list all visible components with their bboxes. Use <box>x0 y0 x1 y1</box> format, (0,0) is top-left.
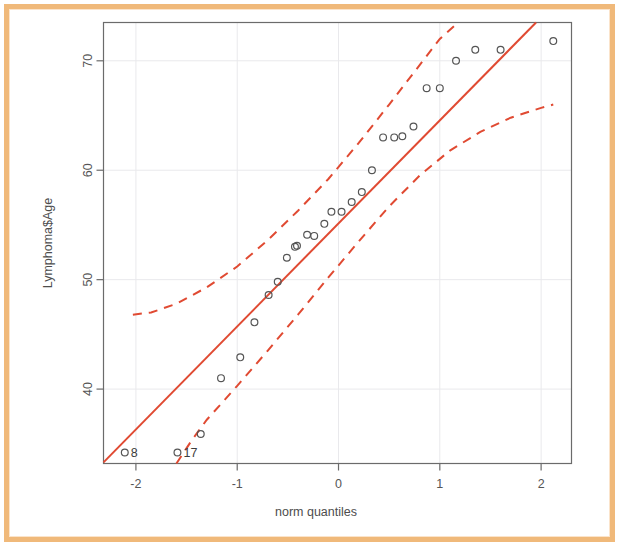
qq-reference-line <box>104 23 537 463</box>
data-point <box>358 189 365 196</box>
gridlines <box>104 23 572 464</box>
y-tick-label: 40 <box>81 382 95 396</box>
outlier-label-group: 817 <box>131 446 198 460</box>
x-tick-label: -1 <box>232 477 243 491</box>
outlier-label: 17 <box>183 446 197 460</box>
upper-confidence-band <box>133 23 458 315</box>
x-axis-tick-labels: -2-1012 <box>130 477 544 491</box>
y-tick-label: 60 <box>81 163 95 177</box>
x-axis-title: norm quantiles <box>275 505 357 519</box>
data-point <box>218 375 225 382</box>
data-point <box>497 46 504 53</box>
x-tick-label: 0 <box>335 477 342 491</box>
lower-confidence-band <box>176 105 553 464</box>
y-tick-label: 50 <box>81 273 95 287</box>
y-axis-title: Lymphoma$Age <box>41 198 55 289</box>
data-point <box>472 46 479 53</box>
x-tick-label: 2 <box>538 477 545 491</box>
data-point <box>399 133 406 140</box>
data-point <box>311 232 318 239</box>
data-point <box>197 431 204 438</box>
x-tick-label: -2 <box>130 477 141 491</box>
data-point <box>294 242 301 249</box>
data-point <box>348 199 355 206</box>
data-point <box>338 208 345 215</box>
data-point <box>321 220 328 227</box>
data-point <box>550 38 557 45</box>
plot-frame-box <box>104 23 572 464</box>
data-point <box>283 254 290 261</box>
qq-plot: 817 -2-1012 40506070 norm quantiles Lymp… <box>0 0 619 546</box>
y-tick-label: 70 <box>81 54 95 68</box>
data-point <box>328 208 335 215</box>
data-point <box>237 354 244 361</box>
data-point <box>304 231 311 238</box>
data-point <box>391 134 398 141</box>
data-point <box>251 319 258 326</box>
y-axis-ticks <box>97 61 104 389</box>
data-point <box>174 449 181 456</box>
data-point-group <box>121 38 556 456</box>
x-tick-label: 1 <box>436 477 443 491</box>
data-point <box>121 449 128 456</box>
figure-page: 817 -2-1012 40506070 norm quantiles Lymp… <box>0 0 619 546</box>
data-point <box>410 123 417 130</box>
x-axis-ticks <box>136 464 541 471</box>
y-axis-tick-labels: 40506070 <box>81 54 95 396</box>
data-point <box>380 134 387 141</box>
data-point <box>423 85 430 92</box>
outlier-label: 8 <box>131 446 138 460</box>
